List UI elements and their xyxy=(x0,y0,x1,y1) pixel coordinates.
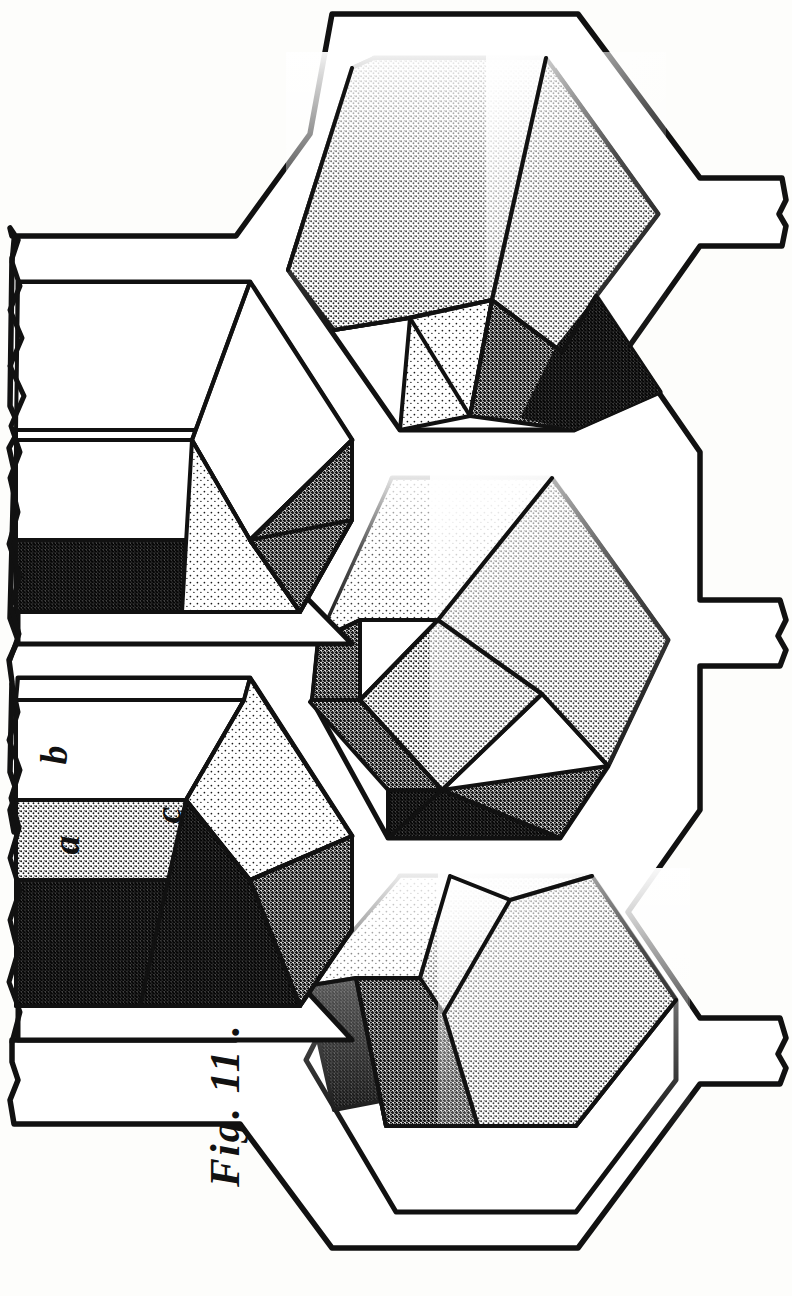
engraving-plate: b a c Fig. 11 . xyxy=(0,0,792,1296)
facet-lower-left-band-b xyxy=(16,678,250,700)
cell-middle-right xyxy=(306,470,680,838)
honeycomb-figure xyxy=(0,0,792,1296)
